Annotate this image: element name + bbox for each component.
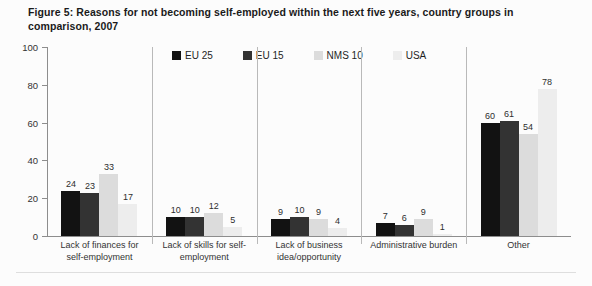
x-axis-category-label: Lack of finances forself-employment [47,240,152,263]
bar-value-label: 9 [316,207,321,217]
bar-slot: 33 [99,47,118,236]
bar-group-bars: 7691 [361,47,466,236]
bar[interactable]: 1 [433,234,452,236]
bar-value-label: 33 [104,162,114,172]
x-axis-line [47,236,571,237]
bar-group-bars: 24233317 [47,47,152,236]
bar-group-bars: 91094 [257,47,362,236]
bar[interactable]: 9 [271,219,290,236]
x-axis-category-label-line: employment [152,252,257,264]
bar-value-label: 6 [402,213,407,223]
bar-slot: 10 [166,47,185,236]
bar-value-label: 12 [209,201,219,211]
bar-value-label: 7 [383,211,388,221]
bar-value-label: 4 [335,216,340,226]
bar[interactable]: 9 [309,219,328,236]
bar-slot: 7 [376,47,395,236]
bar[interactable]: 9 [414,219,433,236]
bar[interactable]: 61 [500,121,519,236]
bar-slot: 10 [185,47,204,236]
bar-slot: 6 [395,47,414,236]
bar-group: 91094 [257,47,362,236]
figure-container: Figure 5: Reasons for not becoming self-… [0,0,592,286]
y-axis-tick-label: 100 [22,42,38,53]
bar-group: 1010125 [152,47,257,236]
bar-value-label: 23 [85,181,95,191]
bar-value-label: 54 [523,122,533,132]
bar-group-bars: 1010125 [152,47,257,236]
bar[interactable]: 7 [376,223,395,236]
bar[interactable]: 6 [395,225,414,236]
x-axis-category-label-line: Lack of skills for self- [152,240,257,252]
page-title: Figure 5: Reasons for not becoming self-… [28,5,573,33]
x-axis-category-label-line: self-employment [47,252,152,264]
bar-slot: 78 [538,47,557,236]
bar-slot: 61 [500,47,519,236]
bar-slot: 4 [328,47,347,236]
bar-value-label: 24 [66,179,76,189]
bar-group: 60615478 [466,47,571,236]
y-axis-tick-label: 80 [27,79,38,90]
x-axis-category-label: Administrative burden [361,240,466,252]
bar-value-label: 9 [421,207,426,217]
bar[interactable]: 10 [185,217,204,236]
bar[interactable]: 5 [223,227,242,236]
bar-value-label: 10 [190,205,200,215]
bar[interactable]: 78 [538,89,557,236]
bar-value-label: 1 [440,222,445,232]
bar-value-label: 9 [278,207,283,217]
y-axis-tick-label: 40 [27,155,38,166]
bar-value-label: 60 [485,111,495,121]
x-axis-category-label-line: Lack of business [257,240,362,252]
bar-slot: 9 [414,47,433,236]
bar-group: 24233317 [47,47,152,236]
bar[interactable]: 60 [481,123,500,236]
bar-value-label: 10 [171,205,181,215]
y-axis-tick-label: 20 [27,193,38,204]
x-axis-category-label: Lack of skills for self-employment [152,240,257,263]
bar-value-label: 5 [230,215,235,225]
bar[interactable]: 24 [61,191,80,236]
bar-slot: 60 [481,47,500,236]
bar-value-label: 78 [542,77,552,87]
y-axis-tick-label: 0 [33,231,38,242]
bar-slot: 10 [290,47,309,236]
bar-group-bars: 60615478 [466,47,571,236]
bar[interactable]: 4 [328,228,347,236]
bar-value-label: 10 [294,205,304,215]
plot-area: 020406080100 242333171010125910947691606… [47,47,571,237]
bar-slot: 12 [204,47,223,236]
bottom-divider [16,272,576,273]
bar[interactable]: 10 [166,217,185,236]
bar[interactable]: 33 [99,174,118,236]
bar[interactable]: 17 [118,204,137,236]
bar-slot: 9 [271,47,290,236]
x-axis-category-label-line: Administrative burden [361,240,466,252]
x-axis-category-label-line: Other [466,240,571,252]
y-axis-tick [42,236,47,237]
x-axis-category-label-line: Lack of finances for [47,240,152,252]
bar-group: 7691 [361,47,466,236]
bar-slot: 17 [118,47,137,236]
bar[interactable]: 54 [519,134,538,236]
y-axis-tick-label: 60 [27,117,38,128]
bar-slot: 54 [519,47,538,236]
bar[interactable]: 10 [290,217,309,236]
bar-value-label: 61 [504,109,514,119]
bar-slot: 1 [433,47,452,236]
bar-slot: 5 [223,47,242,236]
bar-slot: 9 [309,47,328,236]
x-axis-category-label: Lack of businessidea/opportunity [257,240,362,263]
bar-slot: 24 [61,47,80,236]
bar-value-label: 17 [123,192,133,202]
bar[interactable]: 12 [204,213,223,236]
bar[interactable]: 23 [80,193,99,236]
x-axis-category-label-line: idea/opportunity [257,252,362,264]
bar-slot: 23 [80,47,99,236]
x-axis-category-label: Other [466,240,571,252]
